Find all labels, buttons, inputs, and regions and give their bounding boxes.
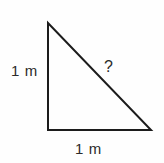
horizontal-leg-label: 1 m (75, 141, 102, 156)
triangle-diagram: 1 m 1 m ? (0, 0, 164, 163)
hypotenuse-unknown-label: ? (104, 59, 114, 75)
vertical-leg-label: 1 m (11, 63, 38, 78)
right-triangle-outline (48, 23, 151, 130)
triangle-shape (0, 0, 164, 163)
